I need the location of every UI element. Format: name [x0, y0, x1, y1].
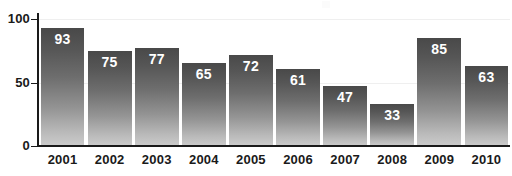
x-axis-label: 2007 — [322, 150, 369, 170]
bar-slot: 63 — [465, 13, 509, 146]
x-axis-label: 2010 — [463, 150, 510, 170]
scan-artifact — [322, 1, 330, 8]
bar[interactable]: 63 — [465, 66, 509, 146]
x-axis-label: 2005 — [227, 150, 274, 170]
y-tick-label-0: 0 — [0, 139, 30, 152]
y-tick-label-100-wrap: 100 — [0, 12, 30, 25]
bar-chart: 93757765726147338563 100 50 0 2001200220… — [0, 0, 512, 176]
y-tick-mark-100 — [31, 19, 38, 20]
y-axis-line — [37, 13, 39, 147]
y-tick-label-0-wrap: 0 — [0, 139, 30, 152]
bar[interactable]: 85 — [417, 38, 461, 146]
bar-value-label: 33 — [370, 108, 414, 123]
bar-value-label: 61 — [276, 73, 320, 88]
x-axis-label: 2003 — [133, 150, 180, 170]
bar[interactable]: 33 — [370, 104, 414, 146]
bar-slot: 93 — [41, 13, 85, 146]
bar-slot: 85 — [417, 13, 461, 146]
bar-value-label: 65 — [182, 67, 226, 82]
y-tick-mark-0 — [31, 146, 38, 147]
bar-slot: 61 — [276, 13, 320, 146]
x-axis-label: 2009 — [416, 150, 463, 170]
bar[interactable]: 47 — [323, 86, 367, 146]
bar-slot: 33 — [370, 13, 414, 146]
bar-value-label: 72 — [229, 59, 273, 74]
x-axis-label: 2001 — [39, 150, 86, 170]
bar-value-label: 93 — [41, 32, 85, 47]
bars-area: 93757765726147338563 — [39, 13, 510, 146]
y-tick-label-50-wrap: 50 — [0, 76, 30, 89]
x-axis-label: 2002 — [86, 150, 133, 170]
x-axis-label: 2004 — [180, 150, 227, 170]
bar-value-label: 63 — [465, 70, 509, 85]
y-tick-mark-50 — [31, 83, 38, 84]
bar[interactable]: 75 — [88, 51, 132, 146]
bar-slot: 77 — [135, 13, 179, 146]
bar-slot: 47 — [323, 13, 367, 146]
bar-slot: 72 — [229, 13, 273, 146]
bar-value-label: 47 — [323, 90, 367, 105]
bar-value-label: 85 — [417, 42, 461, 57]
x-axis-line — [37, 145, 510, 147]
bar-slot: 65 — [182, 13, 226, 146]
y-tick-label-100: 100 — [0, 12, 30, 25]
y-tick-label-50: 50 — [0, 76, 30, 89]
bar[interactable]: 72 — [229, 55, 273, 146]
x-axis-labels: 2001200220032004200520062007200820092010 — [39, 150, 510, 172]
bar-value-label: 77 — [135, 52, 179, 67]
bar[interactable]: 93 — [41, 28, 85, 146]
bar-slot: 75 — [88, 13, 132, 146]
bar[interactable]: 65 — [182, 63, 226, 146]
bar-value-label: 75 — [88, 55, 132, 70]
x-axis-label: 2008 — [369, 150, 416, 170]
bar[interactable]: 77 — [135, 48, 179, 146]
x-axis-label: 2006 — [275, 150, 322, 170]
bar[interactable]: 61 — [276, 69, 320, 146]
